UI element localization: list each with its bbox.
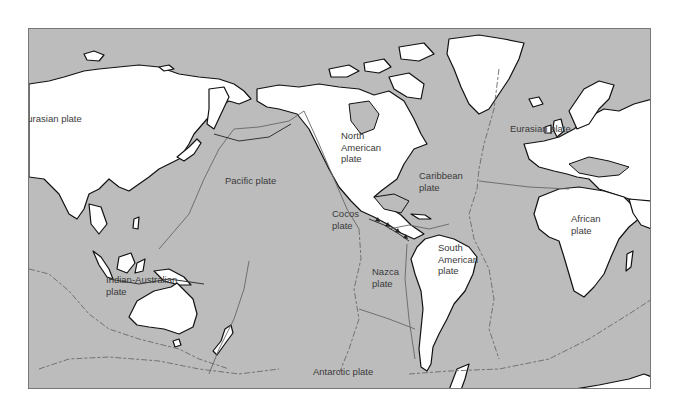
plate-boundary-azores (479, 181, 569, 189)
landmass-indochina (89, 204, 107, 234)
landmass-arctic-archipelago (364, 59, 391, 73)
landmass-borneo (117, 253, 135, 273)
label-antarctic-plate: Antarctic plate (313, 366, 373, 378)
east-pacific-rise (339, 229, 361, 374)
label-eurasian-plate-east: Eurasian plate (510, 123, 571, 135)
landmass-cuba (411, 214, 431, 219)
landmass-antarctica (569, 374, 651, 389)
landmass-iceland (529, 97, 543, 107)
subduction-zone-aleutian (214, 124, 291, 141)
landmass-philippines (133, 217, 139, 229)
label-african-plate: African plate (571, 213, 601, 236)
landmass-madagascar (626, 251, 633, 271)
label-eurasian-plate-west: Eurasian plate (28, 113, 82, 125)
label-indian-australian-plate: Indian-Australian plate (106, 274, 177, 297)
label-caribbean-plate: Caribbean plate (419, 170, 463, 193)
label-south-american-plate: South American plate (438, 242, 478, 277)
landmass-kamchatka (207, 87, 229, 129)
world-plate-map: Eurasian plate Eurasian plate North Amer… (28, 28, 651, 389)
label-cocos-plate: Cocos plate (332, 208, 359, 231)
landmass-tasmania (173, 339, 181, 347)
label-nazca-plate: Nazca plate (372, 266, 399, 289)
mid-atlantic-ridge (469, 69, 499, 359)
plate-boundary-tonga (209, 261, 249, 374)
landmass-novaya-zemlya (84, 51, 104, 61)
landmass-ellesmere (399, 43, 434, 61)
label-pacific-plate: Pacific plate (225, 175, 276, 187)
label-north-american-plate: North American plate (341, 130, 381, 165)
plate-boundary-nazca-south (359, 309, 415, 329)
landmass-antarctica (449, 364, 469, 389)
landmass-africa (534, 187, 641, 297)
southern-ridge (39, 357, 279, 374)
landmass-sulawesi (135, 259, 145, 273)
landmass-greenland (447, 35, 524, 114)
landmass-arctic-archipelago (329, 65, 359, 77)
